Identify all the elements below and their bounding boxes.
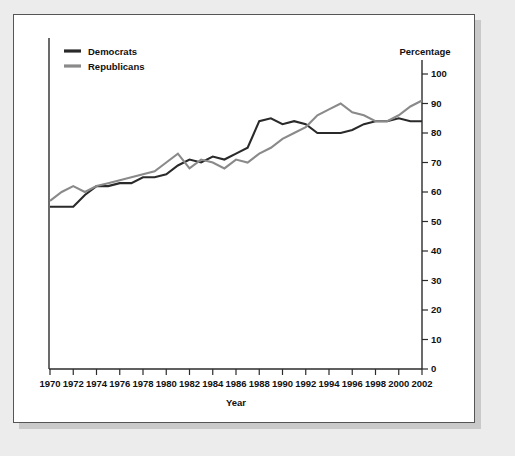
y-tick-label: 90: [431, 98, 442, 109]
x-tick-label: 1992: [295, 378, 316, 389]
x-axis: 1970197219741976197819801982198419861988…: [39, 38, 432, 389]
chart-container: 0102030405060708090100 19701972197419761…: [14, 15, 474, 422]
y-axis-title: Percentage: [399, 46, 450, 57]
x-tick-label: 2002: [411, 378, 432, 389]
x-tick-label: 1970: [39, 378, 60, 389]
x-tick-label: 1982: [179, 378, 200, 389]
y-axis: 0102030405060708090100: [422, 60, 447, 374]
y-tick-label: 0: [431, 363, 436, 374]
y-tick-label: 100: [431, 68, 447, 79]
x-tick-label: 1988: [249, 378, 270, 389]
series-layer: [50, 101, 422, 207]
series-line-democrats: [50, 118, 422, 207]
chart-legend: DemocratsRepublicans: [64, 46, 145, 72]
y-tick-label: 50: [431, 216, 442, 227]
line-chart: 0102030405060708090100 19701972197419761…: [14, 15, 474, 422]
y-tick-label: 70: [431, 157, 442, 168]
x-tick-label: 1972: [63, 378, 84, 389]
x-tick-label: 1990: [272, 378, 293, 389]
chart-page: 0102030405060708090100 19701972197419761…: [13, 14, 475, 423]
x-tick-label: 2000: [388, 378, 409, 389]
x-tick-label: 1996: [342, 378, 363, 389]
y-tick-label: 80: [431, 127, 442, 138]
legend-label-democrats: Democrats: [88, 46, 137, 57]
x-tick-label: 1984: [202, 378, 224, 389]
axis-titles: PercentageYear: [226, 46, 451, 408]
x-tick-label: 1974: [86, 378, 108, 389]
y-tick-label: 60: [431, 186, 442, 197]
x-tick-label: 1980: [156, 378, 177, 389]
y-tick-label: 40: [431, 245, 442, 256]
x-tick-label: 1976: [109, 378, 130, 389]
y-tick-label: 10: [431, 334, 442, 345]
y-tick-label: 30: [431, 275, 442, 286]
legend-label-republicans: Republicans: [88, 61, 145, 72]
x-axis-title: Year: [226, 397, 246, 408]
x-tick-label: 1994: [318, 378, 340, 389]
y-tick-label: 20: [431, 304, 442, 315]
x-tick-label: 1986: [225, 378, 246, 389]
x-tick-label: 1998: [365, 378, 386, 389]
x-tick-label: 1978: [132, 378, 153, 389]
